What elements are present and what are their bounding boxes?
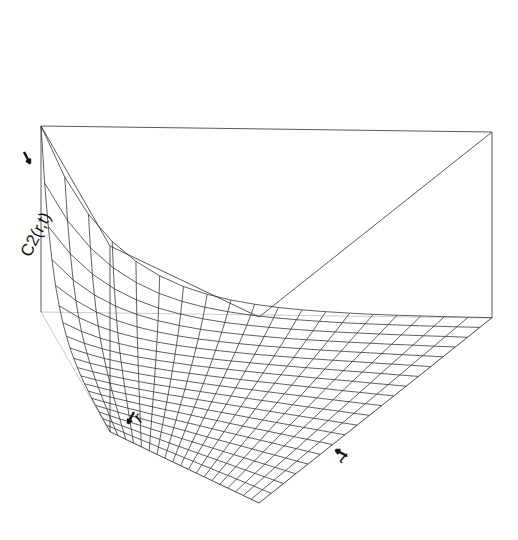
plot-canvas: C2(r,t) r t — [0, 0, 518, 540]
axis-box-frame — [41, 126, 492, 503]
surface-plot-figure: C2(r,t) r t — [0, 0, 518, 540]
axis-tick-arrows — [24, 152, 347, 456]
